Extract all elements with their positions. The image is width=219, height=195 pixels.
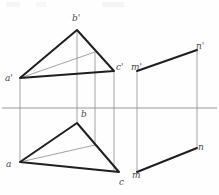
frontal-triangle <box>20 30 114 78</box>
label-m-top: m <box>132 171 141 180</box>
plane-front-edge <box>137 50 197 71</box>
drawing-sheet: a' b' c' m' n' a b c m n <box>0 0 219 195</box>
label-a-front: a' <box>5 74 13 83</box>
label-b-front: b' <box>72 14 80 23</box>
label-a-top: a <box>6 160 11 169</box>
projector-lines <box>20 30 197 172</box>
label-n-front: n' <box>196 42 204 51</box>
plane-top-edge <box>137 148 197 172</box>
label-b-top: b <box>81 110 87 119</box>
heavy-outlines <box>20 30 197 172</box>
projection-drawing <box>0 0 219 195</box>
label-c-front: c' <box>116 63 124 72</box>
label-c-top: c <box>119 178 124 187</box>
label-m-front: m' <box>131 63 142 72</box>
label-n-top: n <box>198 143 204 152</box>
horizontal-triangle <box>20 123 119 172</box>
